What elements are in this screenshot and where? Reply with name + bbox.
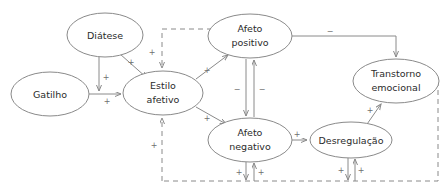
edge-positivo-to-transtorno [292, 36, 396, 57]
node-transtorno-emocional-label-line2: emocional [371, 82, 420, 93]
node-gatilho[interactable]: Gatilho [11, 72, 89, 116]
node-gatilho-label: Gatilho [33, 89, 67, 100]
edge-estilo-to-positivo [196, 55, 228, 79]
node-diatese-label: Diátese [87, 30, 123, 41]
sign-positivo-negativo-left: − [234, 85, 241, 94]
sign-positivo-transtorno: − [327, 27, 334, 36]
node-afeto-positivo-label-line2: positivo [231, 37, 268, 48]
node-afeto-negativo-label-line2: negativo [229, 141, 271, 152]
sign-desregulacao-transtorno: + [367, 106, 374, 115]
node-estilo-afetivo[interactable]: Estilo afetivo [123, 71, 203, 115]
sign-feedback-estilo: + [151, 141, 158, 150]
sign-estilo-negativo: + [204, 114, 211, 123]
node-desregulacao[interactable]: Desregulação [310, 122, 392, 158]
sign-negativo-desregulacao: + [294, 130, 301, 139]
sign-estilo-positivo: + [204, 66, 211, 75]
sign-positivo-negativo-right: − [259, 85, 266, 94]
sign-feedback-desregulacao-right: + [358, 166, 365, 175]
sign-feedback-negativo-right: + [258, 168, 265, 177]
node-afeto-negativo-label-line1: Afeto [238, 127, 263, 138]
sign-diatese-down: + [103, 73, 110, 82]
sign-gatilho-estilo: + [104, 97, 111, 106]
node-desregulacao-label: Desregulação [318, 135, 383, 146]
edge-estilo-to-negativo [196, 107, 226, 124]
sign-feedback-negativo-left: + [236, 168, 243, 177]
node-transtorno-emocional[interactable]: Transtorno emocional [353, 59, 439, 103]
node-afeto-positivo-label-line1: Afeto [238, 23, 263, 34]
node-afeto-positivo[interactable]: Afeto positivo [208, 14, 292, 58]
sign-diatese-estilo: + [128, 58, 135, 67]
node-estilo-afetivo-label-line2: afetivo [147, 94, 180, 105]
node-afeto-negativo[interactable]: Afeto negativo [208, 118, 292, 162]
causal-loop-diagram: Diátese Gatilho Estilo afetivo Afeto pos… [0, 0, 444, 195]
node-transtorno-emocional-label-line1: Transtorno [370, 68, 421, 79]
node-estilo-afetivo-label-line1: Estilo [150, 80, 176, 91]
sign-feedback-desregulacao-left: + [338, 166, 345, 175]
sign-dashed-positivo-estilo: + [149, 48, 156, 57]
edge-dashed-positivo-to-estilo [162, 29, 212, 68]
diagram-canvas: Diátese Gatilho Estilo afetivo Afeto pos… [0, 0, 444, 195]
node-diatese[interactable]: Diátese [67, 13, 143, 57]
